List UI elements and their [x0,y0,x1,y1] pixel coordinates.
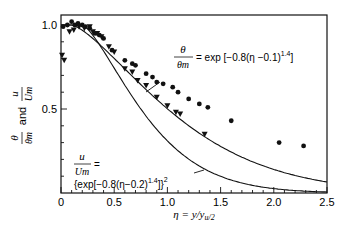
x-tick-label: 2.5 [319,196,334,208]
y-tick-labels: 0.51.0 [42,19,57,115]
x-tick-label: 2.0 [266,196,281,208]
svg-text:Um: Um [23,87,34,101]
y-axis-label: θ θm and u Um [8,87,34,144]
svg-text:θm: θm [177,59,189,70]
svg-text:θ: θ [8,135,20,141]
theta-data-point [65,23,70,28]
x-tick-label: 0.5 [107,196,122,208]
velocity-data-point [135,78,141,84]
velocity-data-point [177,112,183,118]
x-tick-label: 0 [58,196,64,208]
velocity-data-point [202,132,208,138]
theta-equation: θ θm = exp [−0.8(η −0.1)1.4] [146,43,294,92]
y-tick-label: 0.5 [42,103,57,115]
theta-data-point [205,105,210,110]
velocity-data-point [61,58,67,64]
theta-fit-curve [61,25,327,182]
svg-text:and: and [16,107,28,125]
theta-data-point [197,102,202,107]
x-axis-label: η = y/yu/2 [173,208,214,222]
svg-text:Um: Um [75,166,89,177]
svg-text:θm: θm [23,132,34,144]
theta-data-point [61,24,66,29]
velocity-data-point [59,53,65,59]
theta-data-point [229,118,234,123]
theta-data-point [301,144,306,149]
x-tick-label: 1.5 [213,196,228,208]
theta-data-point [176,90,181,95]
y-tick-label: 1.0 [42,19,57,31]
theta-data-point [186,97,191,102]
data-points [59,19,306,148]
theta-data-point [170,85,175,90]
theta-data-point [133,63,138,68]
svg-text:θ: θ [180,43,186,55]
plot-frame [61,15,327,193]
theta-data-point [277,140,282,145]
velocity-arrow [194,170,204,173]
svg-text:u: u [8,91,20,97]
x-tick-labels: 00.51.01.52.02.5 [58,196,335,208]
svg-text:= exp [−0.8(η −0.1)1.4]: = exp [−0.8(η −0.1)1.4] [196,50,294,63]
svg-text:=: = [94,159,100,170]
velocity-data-point [164,103,170,109]
svg-text:{exp[−0.8(η−0.2)1.4]}2: {exp[−0.8(η−0.2)1.4]}2 [74,176,168,190]
theta-data-point [161,81,166,86]
plot-border [61,15,327,193]
theta-data-point [150,75,155,80]
x-tick-label: 1.0 [160,196,175,208]
velocity-data-point [67,29,73,35]
theta-data-point [144,71,149,76]
svg-text:u: u [79,150,85,162]
chart: 00.51.01.52.02.5 0.51.0 η = y/yu/2 θ θm … [0,0,352,227]
theta-data-point [122,58,127,63]
